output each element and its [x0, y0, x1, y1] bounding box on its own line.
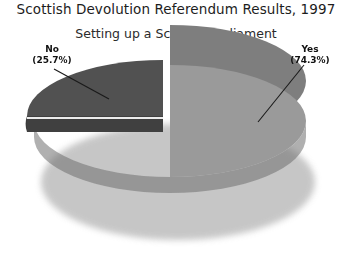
- slice-label-yes-name: Yes: [301, 44, 318, 54]
- slice-label-no: No (25.7%): [22, 44, 82, 66]
- pie-chart-figure: Scottish Devolution Referendum Results, …: [0, 0, 352, 260]
- slice-label-yes: Yes (74.3%): [280, 44, 340, 66]
- slice-label-yes-percent: (74.3%): [280, 55, 340, 66]
- pie-chart-graphic: [0, 0, 352, 260]
- no-slice-top: [27, 60, 163, 116]
- slice-label-no-name: No: [45, 44, 59, 54]
- slice-label-no-percent: (25.7%): [22, 55, 82, 66]
